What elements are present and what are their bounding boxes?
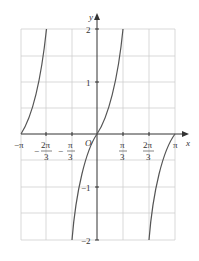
x-tick-pi: π [173,140,178,150]
svg-text:−: − [58,146,63,156]
y-tick-neg2: −2 [81,236,91,246]
axes [21,18,184,240]
tan-graph: y x O 2 1 −1 −2 −π − 2π 3 − π 3 π 3 2π 3… [0,0,199,261]
x-axis-arrow-icon [182,131,189,137]
x-tick-pi-3: π 3 [119,140,127,162]
svg-text:2π: 2π [41,140,51,150]
svg-text:2π: 2π [143,140,153,150]
y-axis-label: y [88,12,93,22]
y-tick-2: 2 [86,25,91,35]
x-tick-neg-pi: −π [14,140,24,150]
x-tick-neg-pi-3: − π 3 [58,140,75,162]
svg-text:−: − [34,146,39,156]
y-axis-arrow-icon [94,13,100,20]
origin-label: O [85,138,92,148]
svg-text:π: π [68,140,73,150]
x-axis-label: x [185,138,190,148]
x-tick-2pi-3: 2π 3 [143,140,154,162]
x-tick-neg-2pi-3: − 2π 3 [34,140,52,162]
svg-text:π: π [120,140,125,150]
y-tick-1: 1 [86,78,91,88]
svg-text:3: 3 [146,152,151,162]
svg-text:3: 3 [68,152,73,162]
svg-text:3: 3 [44,152,49,162]
y-tick-neg1: −1 [81,183,91,193]
svg-text:3: 3 [120,152,125,162]
